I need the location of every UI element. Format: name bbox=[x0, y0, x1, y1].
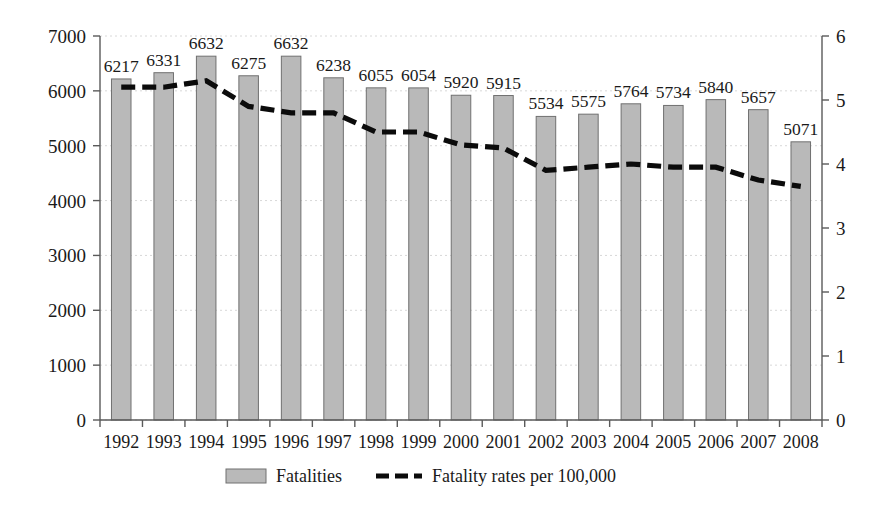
x-axis-category-label: 2001 bbox=[485, 432, 521, 452]
x-axis-category-label: 2004 bbox=[613, 432, 649, 452]
bar bbox=[111, 79, 131, 420]
bar-value-label: 6275 bbox=[231, 53, 266, 73]
x-axis-category-label: 1995 bbox=[231, 432, 267, 452]
x-axis-category-label: 1999 bbox=[401, 432, 437, 452]
right-axis-tick-label: 5 bbox=[836, 90, 846, 111]
bar-value-label: 5734 bbox=[656, 82, 691, 102]
bar-value-label: 6217 bbox=[104, 56, 139, 76]
bar bbox=[664, 105, 684, 420]
x-axis-category-label: 2000 bbox=[443, 432, 479, 452]
left-axis-tick-label: 0 bbox=[77, 410, 87, 431]
right-axis-tick-label: 0 bbox=[836, 410, 846, 431]
x-axis-category-label: 2003 bbox=[570, 432, 606, 452]
bars-group bbox=[111, 56, 810, 420]
bar bbox=[154, 73, 174, 420]
x-axis-category-label: 1992 bbox=[103, 432, 139, 452]
bar-value-label: 5920 bbox=[444, 72, 479, 92]
bar-value-label: 6331 bbox=[146, 50, 181, 70]
bar-value-label: 6054 bbox=[401, 65, 436, 85]
x-axis-category-label: 2002 bbox=[528, 432, 564, 452]
bar bbox=[324, 78, 344, 420]
fatalities-combo-chart: 6217633166326275663262386055605459205915… bbox=[0, 0, 882, 511]
bar-value-label: 6238 bbox=[316, 55, 351, 75]
left-axis-tick-label: 2000 bbox=[48, 300, 86, 321]
legend-swatch-fatalities bbox=[226, 469, 266, 483]
bar-value-label: 5840 bbox=[698, 77, 733, 97]
bar bbox=[409, 88, 429, 420]
right-axis-tick-label: 2 bbox=[836, 282, 846, 303]
bar-value-label: 6055 bbox=[359, 65, 394, 85]
x-axis-category-label: 1993 bbox=[146, 432, 182, 452]
right-axis: 0123456 bbox=[822, 26, 846, 431]
right-axis-tick-label: 4 bbox=[836, 154, 846, 175]
legend: FatalitiesFatality rates per 100,000 bbox=[226, 466, 616, 486]
bar bbox=[366, 88, 386, 420]
bar bbox=[494, 96, 514, 420]
left-axis-tick-label: 3000 bbox=[48, 245, 86, 266]
bar bbox=[536, 116, 556, 420]
bar-value-label: 5764 bbox=[613, 81, 648, 101]
left-axis-tick-label: 4000 bbox=[48, 191, 86, 212]
left-axis-tick-label: 6000 bbox=[48, 81, 86, 102]
x-axis-category-label: 1998 bbox=[358, 432, 394, 452]
x-axis: 1992199319941995199619971998199920002001… bbox=[100, 420, 822, 452]
x-axis-category-label: 2007 bbox=[740, 432, 776, 452]
bar bbox=[621, 104, 641, 420]
left-axis: 01000200030004000500060007000 bbox=[48, 26, 100, 431]
left-axis-tick-label: 1000 bbox=[48, 355, 86, 376]
bar-value-label: 5071 bbox=[783, 119, 818, 139]
legend-label: Fatality rates per 100,000 bbox=[432, 466, 616, 486]
left-axis-tick-label: 5000 bbox=[48, 136, 86, 157]
x-axis-category-label: 1997 bbox=[316, 432, 352, 452]
bar bbox=[239, 76, 259, 420]
bar-value-label: 5657 bbox=[741, 87, 776, 107]
bar-value-label: 5534 bbox=[528, 93, 563, 113]
x-axis-category-label: 1996 bbox=[273, 432, 309, 452]
legend-label: Fatalities bbox=[276, 466, 342, 486]
bar bbox=[749, 110, 769, 420]
bar bbox=[196, 56, 216, 420]
left-axis-tick-label: 7000 bbox=[48, 26, 86, 47]
chart-container: 6217633166326275663262386055605459205915… bbox=[0, 0, 882, 511]
bar bbox=[706, 100, 726, 420]
x-axis-category-label: 2005 bbox=[655, 432, 691, 452]
x-axis-category-label: 2006 bbox=[698, 432, 734, 452]
bar-value-label: 5575 bbox=[571, 91, 606, 111]
bar-value-label: 5915 bbox=[486, 73, 521, 93]
bar-value-label: 6632 bbox=[274, 33, 309, 53]
right-axis-tick-label: 6 bbox=[836, 26, 846, 47]
x-axis-category-label: 2008 bbox=[783, 432, 819, 452]
right-axis-tick-label: 1 bbox=[836, 346, 846, 367]
x-axis-category-label: 1994 bbox=[188, 432, 224, 452]
bar-value-label: 6632 bbox=[189, 33, 224, 53]
bar bbox=[579, 114, 599, 420]
right-axis-tick-label: 3 bbox=[836, 218, 846, 239]
